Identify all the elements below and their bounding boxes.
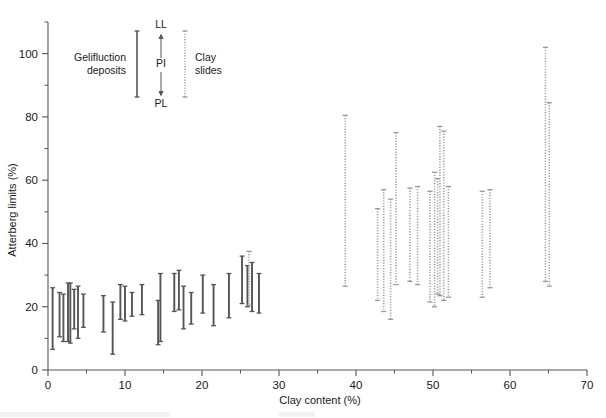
legend-gelifluction-label-line1: Gelifluction — [74, 51, 126, 63]
y-axis-tick-label: 20 — [25, 301, 38, 313]
legend-clayslides-label-line2: slides — [195, 64, 222, 76]
legend-arrow-up-head — [158, 34, 163, 40]
x-axis-tick-label: 70 — [581, 379, 594, 391]
y-axis-tick-label: 0 — [32, 364, 38, 376]
scan-artifact — [0, 412, 606, 417]
y-axis-tick-label: 60 — [25, 174, 38, 186]
series-gelifluction-deposits — [50, 256, 261, 354]
y-axis-tick-label: 80 — [25, 111, 38, 123]
legend-ll-label: LL — [155, 18, 167, 30]
legend-clayslides-label-line1: Clay — [195, 51, 217, 63]
legend-pl-label: PL — [155, 97, 168, 109]
x-axis-tick-label: 60 — [504, 379, 517, 391]
y-axis-tick-label: 100 — [19, 48, 38, 60]
legend-pi-label: PI — [156, 57, 166, 69]
x-axis-tick-label: 50 — [427, 379, 440, 391]
y-axis-title: Atterberg limits (%) — [6, 163, 18, 257]
legend-gelifluction-label-line2: deposits — [87, 64, 126, 76]
data-series — [50, 47, 552, 354]
y-axis-tick-label: 40 — [25, 237, 38, 249]
chart-legend: GelifluctiondepositsClayslidesLLPIPL — [74, 18, 222, 109]
figure-root: 020406080100010203040506070 Gelifluction… — [0, 0, 606, 418]
series-clay-slides — [246, 47, 552, 319]
atterberg-limits-chart: 020406080100010203040506070 Gelifluction… — [0, 0, 606, 418]
x-axis-tick-label: 40 — [350, 379, 363, 391]
x-axis-title: Clay content (%) — [279, 394, 360, 406]
x-axis-tick-label: 0 — [45, 379, 51, 391]
legend-arrow-down-head — [158, 91, 163, 97]
x-axis-tick-label: 10 — [119, 379, 132, 391]
axes: 020406080100010203040506070 — [19, 22, 594, 391]
x-axis-tick-label: 20 — [196, 379, 209, 391]
x-axis-tick-label: 30 — [273, 379, 286, 391]
